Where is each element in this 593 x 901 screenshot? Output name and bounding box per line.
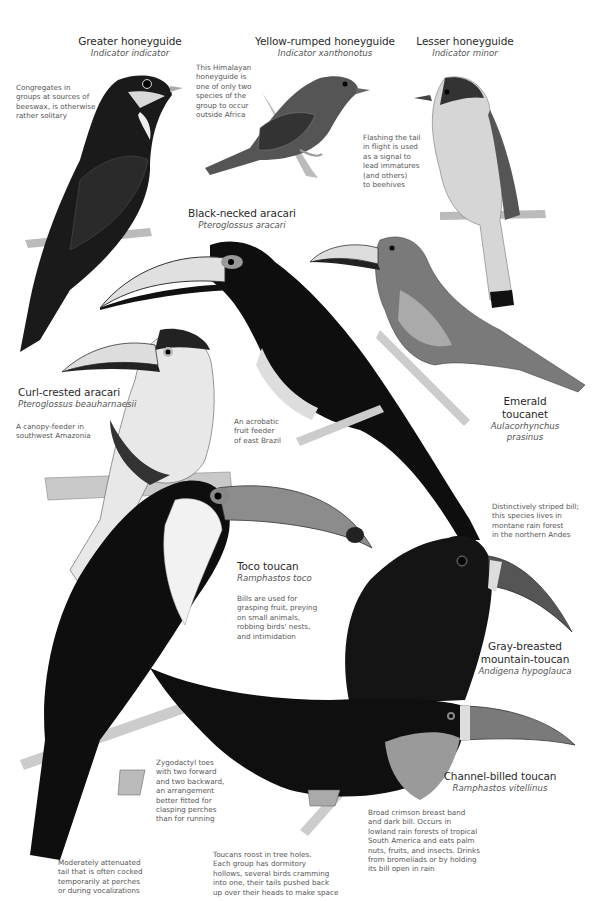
label-greater-honeyguide: Greater honeyguide Indicator indicator — [60, 35, 200, 59]
note-line: in flight is used — [363, 142, 435, 151]
note-line: clasping perches — [156, 805, 246, 814]
note-zygodactyl-toes: Zygodactyl toes with two forward and two… — [156, 758, 246, 824]
note-line: honeyguide is — [196, 72, 262, 81]
scientific-name: Indicator minor — [410, 48, 520, 59]
note-line: rather solitary — [16, 111, 96, 120]
note-line: and intimidation — [237, 632, 337, 641]
scientific-name-line2: prasinus — [480, 432, 570, 443]
note-line: Bills are used for — [237, 594, 337, 603]
note-line: robbing birds' nests, — [237, 622, 337, 631]
note-line: better fitted for — [156, 796, 246, 805]
gray-breasted-mountain-toucan-illustration — [345, 536, 572, 705]
note-line: Zygodactyl toes — [156, 758, 246, 767]
common-name-line1: Gray-breasted — [462, 640, 588, 653]
note-line: group to occur — [196, 101, 262, 110]
note-line: to beehives — [363, 180, 435, 189]
common-name: Lesser honeyguide — [410, 35, 520, 48]
note-line: in the northern Andes — [492, 530, 592, 539]
note-line: Each group has dormitory — [213, 859, 348, 868]
label-curl-crested-aracari: Curl-crested aracari Pteroglossus beauha… — [18, 386, 148, 410]
common-name: Yellow-rumped honeyguide — [250, 35, 400, 48]
note-line: from bromeliads or by holding — [368, 855, 498, 864]
note-line: or during vocalizations — [58, 886, 158, 895]
note-line: lowland rain forests of tropical — [368, 827, 498, 836]
common-name-line2: toucanet — [480, 408, 570, 421]
note-toco-toucan: Bills are used for grasping fruit, preyi… — [237, 594, 337, 641]
note-line: beeswax, is otherwise — [16, 102, 96, 111]
scientific-name-line1: Aulacorhynchus — [480, 421, 570, 432]
common-name-line2: mountain-toucan — [462, 653, 588, 666]
note-line: on small animals, — [237, 613, 337, 622]
note-line: An acrobatic — [234, 417, 294, 426]
note-line: with two forward — [156, 767, 246, 776]
scientific-name: Andigena hypoglauca — [462, 666, 588, 677]
note-line: A canopy-feeder in — [16, 422, 116, 431]
note-line: one of only two — [196, 82, 262, 91]
common-name: Greater honeyguide — [60, 35, 200, 48]
note-line: an arrangement — [156, 786, 246, 795]
note-line: temporarily at perches — [58, 877, 158, 886]
note-line: and two backward, — [156, 777, 246, 786]
label-toco-toucan: Toco toucan Ramphastos toco — [237, 560, 347, 584]
note-line: Toucans roost in tree holes. — [213, 850, 348, 859]
scientific-name: Pteroglossus beauharnaesii — [18, 399, 148, 410]
note-attenuated-tail: Moderately attenuated tail that is often… — [58, 858, 158, 896]
note-line: This Himalayan — [196, 63, 262, 72]
note-greater-honeyguide: Congregates in groups at sources of bees… — [16, 83, 96, 121]
note-black-necked-aracari: An acrobatic fruit feeder of east Brazil — [234, 417, 294, 445]
note-yellow-rumped-honeyguide: This Himalayan honeyguide is one of only… — [196, 63, 262, 119]
note-line: and dark bill. Occurs in — [368, 817, 498, 826]
label-gray-breasted-mountain-toucan: Gray-breasted mountain-toucan Andigena h… — [462, 640, 588, 677]
note-line: up over their heads to make space — [213, 888, 348, 897]
note-line: Congregates in — [16, 83, 96, 92]
note-line: tail that is often cocked — [58, 867, 158, 876]
label-black-necked-aracari: Black-necked aracari Pteroglossus aracar… — [172, 207, 312, 231]
note-toucan-roosting: Toucans roost in tree holes. Each group … — [213, 850, 348, 897]
scientific-name: Indicator xanthonotus — [250, 48, 400, 59]
note-line: species of the — [196, 91, 262, 100]
label-channel-billed-toucan: Channel-billed toucan Ramphastos vitelli… — [420, 770, 580, 794]
note-channel-billed-toucan: Broad crimson breast band and dark bill.… — [368, 808, 498, 874]
note-line: lead immatures — [363, 161, 435, 170]
note-line: (and others) — [363, 171, 435, 180]
note-gray-breasted-mountain-toucan: Distinctively striped bill; this species… — [492, 502, 592, 540]
scientific-name: Ramphastos toco — [237, 573, 347, 584]
label-emerald-toucanet: Emerald toucanet Aulacorhynchus prasinus — [480, 395, 570, 443]
note-line: hollows, several birds cramming — [213, 869, 348, 878]
note-line: Broad crimson breast band — [368, 808, 498, 817]
note-curl-crested-aracari: A canopy-feeder in southwest Amazonia — [16, 422, 116, 441]
label-lesser-honeyguide: Lesser honeyguide Indicator minor — [410, 35, 520, 59]
scientific-name: Ramphastos vitellinus — [420, 783, 580, 794]
note-line: Distinctively striped bill; — [492, 502, 592, 511]
common-name: Toco toucan — [237, 560, 347, 573]
label-yellow-rumped-honeyguide: Yellow-rumped honeyguide Indicator xanth… — [250, 35, 400, 59]
note-line: nuts, fruits, and insects. Drinks — [368, 846, 498, 855]
note-line: its bill open in rain — [368, 864, 498, 873]
note-line: southwest Amazonia — [16, 431, 116, 440]
note-line: than for running — [156, 814, 246, 823]
common-name: Curl-crested aracari — [18, 386, 148, 399]
note-line: this species lives in — [492, 511, 592, 520]
note-lesser-honeyguide: Flashing the tail in flight is used as a… — [363, 133, 435, 189]
note-line: as a signal to — [363, 152, 435, 161]
note-line: into one, their tails pushed back — [213, 878, 348, 887]
note-line: Moderately attenuated — [58, 858, 158, 867]
note-line: grasping fruit, preying — [237, 603, 337, 612]
note-line: groups at sources of — [16, 92, 96, 101]
note-line: montane rain forest — [492, 521, 592, 530]
bird-plate-illustration — [0, 0, 593, 901]
scientific-name: Indicator indicator — [60, 48, 200, 59]
note-line: Flashing the tail — [363, 133, 435, 142]
note-line: fruit feeder — [234, 426, 294, 435]
common-name-line1: Emerald — [480, 395, 570, 408]
note-line: outside Africa — [196, 110, 262, 119]
common-name: Black-necked aracari — [172, 207, 312, 220]
note-line: South America and eats palm — [368, 836, 498, 845]
scientific-name: Pteroglossus aracari — [172, 220, 312, 231]
common-name: Channel-billed toucan — [420, 770, 580, 783]
note-line: of east Brazil — [234, 436, 294, 445]
